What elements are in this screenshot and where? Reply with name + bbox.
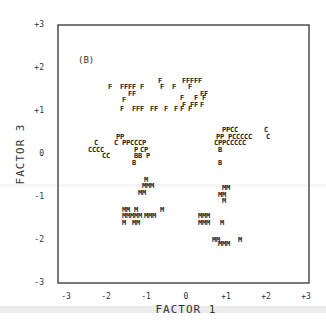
point-f: F (198, 77, 202, 85)
point-f: F (174, 105, 178, 113)
x-tick-label: +3 (301, 292, 311, 301)
point-f: F (160, 83, 164, 91)
point-b: B (218, 146, 222, 154)
point-f: F (180, 105, 184, 113)
point-m: M (220, 219, 224, 227)
x-tick-label: +1 (221, 292, 231, 301)
point-f: F (154, 105, 158, 113)
point-b: B (218, 159, 222, 167)
data-points: FFFFFFFFFFFFFFFFFFFFFFFFFFFFFFFFFFFFFPPP… (88, 77, 270, 248)
scatter-plot: (B) -3-2-10+1+2+3 +3+2+10-1-2-3 FFFFFFFF… (0, 0, 326, 328)
y-tick-label: +1 (34, 106, 44, 115)
point-f: F (200, 101, 204, 109)
point-c: C (242, 139, 246, 147)
panel-label: (B) (78, 55, 94, 65)
point-m: M (150, 182, 154, 190)
point-m: M (142, 189, 146, 197)
point-c: C (248, 133, 252, 141)
y-axis-label: FACTOR 3 (14, 124, 27, 185)
point-m: M (122, 219, 126, 227)
point-b: B (132, 159, 136, 167)
point-f: F (140, 105, 144, 113)
point-f: F (132, 90, 136, 98)
point-c: C (266, 133, 270, 141)
point-m: M (238, 236, 242, 244)
x-tick-label: -1 (141, 292, 151, 301)
y-tick-label: -3 (34, 278, 44, 287)
point-m: M (222, 197, 226, 205)
plot-frame (58, 25, 309, 283)
y-tick-label: +2 (34, 63, 44, 72)
point-m: M (136, 219, 140, 227)
point-f: F (172, 83, 176, 91)
point-f: F (188, 83, 192, 91)
point-f: F (108, 83, 112, 91)
x-tick-label: 0 (184, 292, 189, 301)
x-tick-label: +2 (261, 292, 271, 301)
point-m: M (206, 219, 210, 227)
y-tick-label: 0 (39, 149, 44, 158)
y-axis-ticks: +3+2+10-1-2-3 (34, 20, 44, 287)
point-f: F (140, 83, 144, 91)
point-p: P (146, 152, 150, 160)
point-m: M (160, 206, 164, 214)
point-m: M (226, 240, 230, 248)
x-tick-label: -3 (61, 292, 71, 301)
point-b: B (138, 152, 142, 160)
x-axis-ticks: -3-2-10+1+2+3 (61, 292, 311, 301)
point-c: C (114, 139, 118, 147)
point-f: F (120, 105, 124, 113)
point-m: M (226, 184, 230, 192)
y-tick-label: +3 (34, 20, 44, 29)
x-axis-label: FACTOR 1 (156, 303, 217, 316)
point-f: F (194, 101, 198, 109)
y-tick-label: -1 (34, 192, 44, 201)
point-f: F (164, 105, 168, 113)
point-m: M (152, 212, 156, 220)
y-tick-label: -2 (34, 235, 44, 244)
x-tick-label: -2 (101, 292, 111, 301)
point-c: C (106, 152, 110, 160)
point-f: F (122, 96, 126, 104)
point-f: F (188, 105, 192, 113)
